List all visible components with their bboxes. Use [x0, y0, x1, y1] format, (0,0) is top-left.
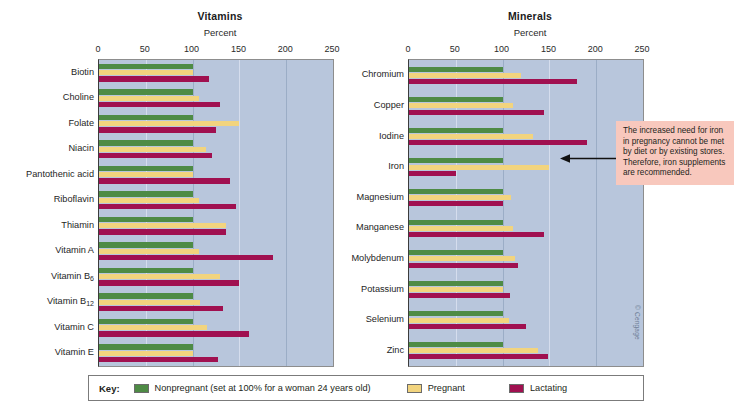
bar-lact — [409, 201, 503, 206]
bar-lact — [409, 354, 548, 359]
bar-lact — [409, 171, 456, 176]
bar-preg — [409, 103, 513, 108]
bar-non — [409, 281, 503, 286]
bar-non — [99, 319, 193, 324]
category-label: Vitamin B6 — [0, 271, 94, 284]
category-label: Biotin — [0, 67, 94, 77]
category-label: Folate — [0, 118, 94, 128]
minerals-panel-title: Minerals — [430, 10, 630, 22]
bar-lact — [409, 110, 544, 115]
bar-non — [409, 342, 503, 347]
chart-legend: Key: Nonpregnant (set at 100% for a woma… — [88, 375, 644, 401]
bar-non — [409, 189, 503, 194]
bar-lact — [99, 306, 223, 311]
bar-lact — [99, 102, 220, 107]
bar-preg — [99, 351, 193, 356]
category-label: Vitamin B12 — [0, 296, 94, 309]
legend-item-pregnant: Pregnant — [407, 383, 465, 393]
legend-swatch-nonpregnant — [134, 384, 149, 393]
legend-label-lactating: Lactating — [530, 383, 567, 393]
copyright-notice: © Cengage — [634, 305, 641, 340]
bar-preg — [99, 147, 206, 152]
bar-lact — [99, 204, 236, 209]
x-tick-label: 50 — [450, 44, 460, 54]
x-tick-label: 150 — [541, 44, 556, 54]
bar-preg — [99, 172, 193, 177]
bar-non — [409, 128, 503, 133]
category-label: Iron — [254, 161, 404, 171]
category-label: Magnesium — [254, 192, 404, 202]
vitamins-panel-title: Vitamins — [120, 10, 320, 22]
bar-preg — [99, 121, 239, 126]
bar-lact — [409, 232, 544, 237]
x-tick-label: 200 — [588, 44, 603, 54]
bar-preg — [409, 165, 549, 170]
bar-non — [99, 166, 193, 171]
bar-lact — [409, 324, 526, 329]
iron-supplement-callout: The increased need for iron in pregnancy… — [616, 121, 734, 185]
bar-lact — [409, 79, 577, 84]
bar-lact — [99, 76, 209, 81]
category-label: Selenium — [254, 314, 404, 324]
bar-non — [99, 140, 193, 145]
figure-canvas: Vitamins Percent 050100150200250 BiotinC… — [0, 0, 743, 409]
bar-non — [409, 97, 503, 102]
bar-preg — [99, 274, 220, 279]
bar-non — [99, 242, 193, 247]
category-label: Molybdenum — [254, 253, 404, 263]
bar-preg — [99, 325, 207, 330]
bar-preg — [409, 226, 513, 231]
bar-non — [409, 250, 503, 255]
bar-preg — [409, 134, 533, 139]
bar-non — [99, 115, 193, 120]
category-label: Choline — [0, 92, 94, 102]
category-label: Vitamin C — [0, 322, 94, 332]
bar-lact — [99, 357, 218, 362]
category-label: Potassium — [254, 284, 404, 294]
bar-non — [409, 311, 503, 316]
bar-non — [409, 67, 503, 72]
legend-label-pregnant: Pregnant — [428, 383, 465, 393]
category-label: Pantothenic acid — [0, 169, 94, 179]
bar-preg — [99, 70, 193, 75]
gridline — [239, 60, 240, 366]
bar-lact — [99, 280, 239, 285]
bar-non — [409, 220, 503, 225]
category-label: Vitamin E — [0, 347, 94, 357]
x-tick-label: 150 — [231, 44, 246, 54]
bar-preg — [409, 256, 515, 261]
bar-preg — [99, 198, 199, 203]
x-tick-label: 200 — [278, 44, 293, 54]
x-tick-label: 250 — [634, 44, 649, 54]
bar-non — [99, 217, 193, 222]
legend-item-nonpregnant: Nonpregnant (set at 100% for a woman 24 … — [134, 383, 371, 393]
bar-preg — [409, 195, 511, 200]
bar-non — [99, 64, 193, 69]
bar-non — [99, 89, 193, 94]
legend-swatch-pregnant — [407, 384, 422, 393]
gridline — [643, 60, 644, 366]
callout-arrow-icon — [560, 154, 616, 163]
minerals-axis-title: Percent — [430, 27, 630, 38]
minerals-x-axis-ticks: 050100150200250 — [408, 44, 644, 58]
x-tick-label: 50 — [140, 44, 150, 54]
bar-lact — [409, 140, 587, 145]
gridline — [596, 60, 597, 366]
x-tick-label: 0 — [405, 44, 410, 54]
bar-preg — [409, 287, 503, 292]
bar-non — [99, 344, 193, 349]
bar-preg — [99, 300, 200, 305]
bar-lact — [99, 229, 226, 234]
category-label: Thiamin — [0, 220, 94, 230]
minerals-plot-area — [408, 59, 644, 367]
gridline — [549, 60, 550, 366]
category-label: Zinc — [254, 345, 404, 355]
bar-non — [99, 191, 193, 196]
bar-lact — [99, 255, 273, 260]
x-tick-label: 100 — [184, 44, 199, 54]
bar-non — [99, 268, 193, 273]
x-tick-label: 0 — [95, 44, 100, 54]
x-tick-label: 100 — [494, 44, 509, 54]
category-label: Iodine — [254, 131, 404, 141]
bar-preg — [409, 73, 521, 78]
